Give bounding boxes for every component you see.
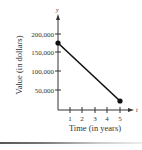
y-tick-label: 200,000 [31,31,54,39]
value-line [58,43,120,101]
x-tick-label: 2 [80,115,84,123]
x-tick-label: 4 [105,115,109,123]
y-tick-label: 150,000 [31,49,54,57]
y-tick-label: 100,000 [31,68,54,76]
x-tick-label: 5 [118,115,122,123]
x-tick-label: 3 [93,115,97,123]
x-tick-label: 1 [68,115,72,123]
x-ticks: 1 2 3 4 5 [68,107,122,123]
y-axis-variable: y [55,7,59,13]
x-axis-arrow-icon [128,108,134,112]
x-axis-label: Time (in years) [69,123,121,133]
y-ticks: 200,000 150,000 100,000 50,000 [31,31,61,95]
start-point-dot [55,40,60,45]
y-axis-label: Value (in dollars) [14,35,24,94]
line-chart: y t 200,000 150,000 100,000 50,000 1 2 3… [0,0,142,150]
y-axis-arrow-icon [56,14,60,20]
bottom-divider [0,142,142,144]
x-axis-variable: t [136,107,138,113]
end-point-dot [117,98,122,103]
y-tick-label: 50,000 [35,87,55,95]
